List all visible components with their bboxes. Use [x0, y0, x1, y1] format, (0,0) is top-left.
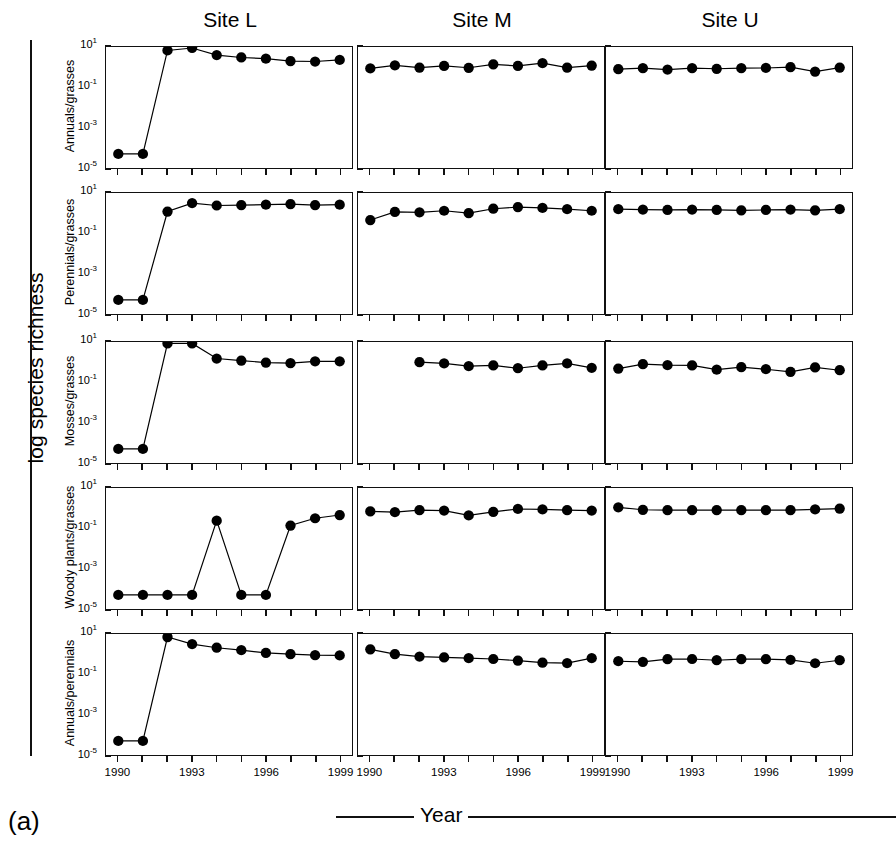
x-axis-label: Year [414, 803, 468, 827]
data-point-marker [687, 204, 697, 214]
x-tick-mark [265, 756, 267, 762]
data-point-marker [638, 505, 648, 515]
data-point-marker [414, 651, 424, 661]
x-tick-mark [369, 756, 371, 762]
x-tick-mark [815, 464, 817, 470]
x-tick-mark [443, 315, 445, 321]
series-line [370, 509, 591, 515]
data-point-marker [638, 204, 648, 214]
x-tick-mark [840, 756, 842, 762]
data-point-marker [587, 206, 597, 216]
x-tick-mark [369, 610, 371, 616]
data-point-marker [390, 60, 400, 70]
plot-panel [357, 487, 605, 610]
x-tick-label: 1990 [97, 766, 137, 778]
x-tick-mark [716, 610, 718, 616]
data-point-marker [285, 199, 295, 209]
data-point-marker [587, 363, 597, 373]
data-point-marker [513, 656, 523, 666]
x-tick-mark [191, 169, 193, 175]
y-tick-label: 10-1 [63, 79, 97, 91]
data-point-marker [736, 205, 746, 215]
data-point-marker [613, 204, 623, 214]
y-tick-label: 10-3 [63, 415, 97, 427]
x-tick-mark [191, 315, 193, 321]
plot-panel [105, 487, 353, 610]
data-point-marker [835, 503, 845, 513]
x-tick-mark [418, 169, 420, 175]
x-tick-mark [468, 464, 470, 470]
x-tick-mark [418, 756, 420, 762]
x-tick-mark [592, 464, 594, 470]
x-tick-mark [443, 464, 445, 470]
data-point-marker [712, 205, 722, 215]
data-point-marker [261, 590, 271, 600]
row-label-perennials-grasses: Perennials/grasses [63, 177, 77, 327]
series-line [118, 515, 339, 595]
x-tick-mark [166, 315, 168, 321]
plot-panel [605, 487, 853, 610]
series-line [118, 343, 339, 448]
x-tick-mark [641, 464, 643, 470]
x-tick-mark [617, 464, 619, 470]
x-tick-mark [840, 315, 842, 321]
x-tick-mark [166, 756, 168, 762]
data-point-marker [414, 357, 424, 367]
data-point-marker [662, 360, 672, 370]
series-line [618, 364, 839, 372]
x-tick-mark [290, 756, 292, 762]
data-point-marker [712, 365, 722, 375]
data-point-marker [785, 62, 795, 72]
data-point-marker [761, 654, 771, 664]
data-point-marker [335, 55, 345, 65]
x-tick-mark [265, 169, 267, 175]
x-tick-mark [241, 464, 243, 470]
x-tick-mark [241, 756, 243, 762]
y-tick-label: 101 [63, 38, 97, 50]
x-tick-mark [393, 756, 395, 762]
data-point-marker [113, 295, 123, 305]
x-tick-mark [716, 756, 718, 762]
data-point-marker [335, 200, 345, 210]
data-point-marker [236, 590, 246, 600]
y-tick-label: 10-5 [63, 307, 97, 319]
series-line [118, 48, 339, 154]
y-tick-label: 10-5 [63, 161, 97, 173]
x-tick-mark [468, 315, 470, 321]
plot-panel [605, 46, 853, 169]
x-tick-mark [592, 756, 594, 762]
x-tick-mark [216, 610, 218, 616]
data-point-marker [162, 634, 172, 642]
x-tick-mark [141, 464, 143, 470]
data-point-marker [835, 62, 845, 72]
x-tick-mark [840, 610, 842, 616]
y-tick-label: 101 [63, 625, 97, 637]
x-tick-mark [493, 464, 495, 470]
x-tick-mark [567, 610, 569, 616]
data-point-marker [310, 356, 320, 366]
x-tick-mark [191, 464, 193, 470]
data-point-marker [390, 649, 400, 659]
data-point-marker [138, 295, 148, 305]
x-tick-mark [790, 315, 792, 321]
data-point-marker [810, 658, 820, 668]
data-point-marker [138, 149, 148, 159]
data-point-marker [785, 367, 795, 377]
data-point-marker [537, 504, 547, 514]
x-tick-mark [166, 464, 168, 470]
x-tick-mark [840, 169, 842, 175]
x-tick-mark [216, 169, 218, 175]
series-line [370, 63, 591, 68]
x-tick-label: 1996 [498, 766, 538, 778]
x-tick-mark [666, 169, 668, 175]
global-y-axis-label-group: log species richness [0, 0, 58, 790]
x-tick-mark [340, 464, 342, 470]
x-tick-mark [369, 169, 371, 175]
data-point-marker [113, 736, 123, 746]
plot-panel [105, 46, 353, 169]
x-tick-mark [716, 464, 718, 470]
x-tick-mark [468, 756, 470, 762]
data-point-marker [138, 590, 148, 600]
data-point-marker [562, 62, 572, 72]
data-point-marker [390, 507, 400, 517]
